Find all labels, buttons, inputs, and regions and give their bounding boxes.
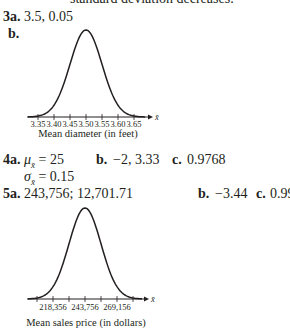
q5b-label: b. xyxy=(198,186,209,202)
q4a-label: 4a. xyxy=(3,152,21,168)
q5c-label: c. xyxy=(256,186,266,202)
sigma-symbol: σ xyxy=(24,169,31,184)
q4c-answer: 0.9768 xyxy=(187,152,226,168)
x-axis-var: x̄ xyxy=(150,294,156,304)
q4c-label: c. xyxy=(172,152,182,168)
x-axis-arrow-icon xyxy=(144,297,149,302)
q4a-sigma-line: σx̄ = 0.15 xyxy=(24,169,74,187)
normal-curve-chart-diameter: x̄ 3.353.403.453.503.553.603.65 Mean dia… xyxy=(0,0,190,140)
x-tick-label: 243,756 xyxy=(71,302,99,312)
x-axis-label: Mean diameter (in feet) xyxy=(38,128,138,140)
normal-curve xyxy=(28,208,142,299)
mu-value: = 25 xyxy=(35,152,64,167)
x-axis-var: x̄ xyxy=(154,112,160,122)
x-tick-label: 269,156 xyxy=(103,302,131,312)
q4b-label: b. xyxy=(96,152,107,168)
sigma-value: = 0.15 xyxy=(35,169,74,184)
x-tick-label: 218,356 xyxy=(39,302,67,312)
normal-curve xyxy=(28,30,145,117)
x-axis-label: Mean sales price (in dollars) xyxy=(26,317,146,329)
mu-symbol: μ xyxy=(24,152,31,167)
normal-curve-chart-sales: x̄ 218,356243,756269,156 Mean sales pric… xyxy=(0,196,190,336)
q4a-mu-line: μx̄ = 25 xyxy=(24,152,64,170)
x-axis-arrow-icon xyxy=(148,115,153,120)
q5c-answer: 0.9997 xyxy=(270,186,290,202)
q4b-answer: −2, 3.33 xyxy=(113,152,159,168)
q5b-answer: −3.44 xyxy=(215,186,247,202)
